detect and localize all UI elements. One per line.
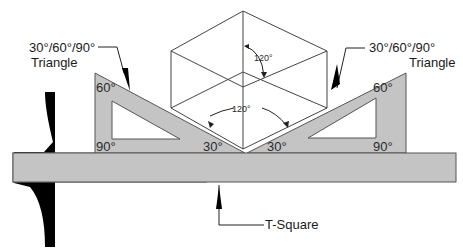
- angle-right-90: 90°: [373, 139, 393, 154]
- isometric-diagram: 30°/60°/90° Triangle 30°/60°/90° Triangl…: [0, 0, 463, 250]
- angle-left-60: 60°: [96, 80, 116, 95]
- angle-left-90: 90°: [96, 139, 116, 154]
- left-triangle-label-1: 30°/60°/90°: [29, 40, 95, 55]
- angle-cube-top: 120°: [254, 53, 273, 63]
- angle-left-30: 30°: [203, 139, 223, 154]
- left-triangle-label-2: Triangle: [31, 55, 77, 70]
- right-triangle-label-2: Triangle: [409, 55, 455, 70]
- angle-right-60: 60°: [373, 80, 393, 95]
- angle-right-30: 30°: [267, 139, 287, 154]
- t-square-label: T-Square: [265, 217, 318, 232]
- t-square-blade-full: [13, 153, 456, 182]
- leader-lines: [98, 47, 365, 225]
- angle-cube-bottom: 120°: [232, 104, 251, 114]
- right-triangle-label-1: 30°/60°/90°: [369, 40, 435, 55]
